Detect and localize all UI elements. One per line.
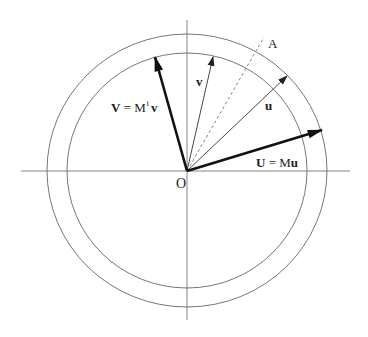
label-U: U — [256, 155, 265, 170]
diagram-canvas — [0, 0, 368, 337]
arrow-V — [155, 57, 187, 171]
label-u: u — [265, 99, 272, 112]
label-V: V — [111, 100, 120, 115]
label-u-rhs: u — [291, 155, 298, 170]
label-A: A — [268, 37, 277, 50]
label-V-equals-Mt-v: V = Mtv — [111, 100, 158, 114]
matrix-transpose-diagram: V = Mtv U = Mu v u A O — [0, 0, 368, 337]
label-v-rhs: v — [151, 100, 158, 115]
label-U-eq: = M — [265, 155, 290, 170]
label-v: v — [196, 75, 203, 88]
label-transpose-sup: t — [147, 99, 149, 108]
label-origin-O: O — [176, 177, 186, 191]
label-V-eq: = M — [120, 100, 145, 115]
label-U-equals-Mu: U = Mu — [256, 156, 298, 169]
